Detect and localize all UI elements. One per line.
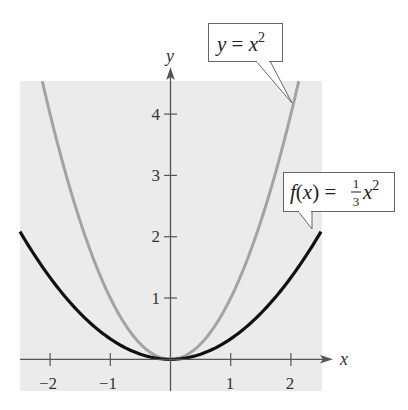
callout2-fraction-numerator: 1 — [353, 176, 360, 191]
callout1-exponent: 2 — [258, 30, 265, 45]
callout2-exponent: 2 — [372, 178, 379, 193]
parabola-chart: −2 −1 1 2 x 4 3 2 1 y y = x2 f(x) = 1 — [0, 0, 408, 410]
svg-text:f(x) =: f(x) = — [290, 180, 336, 204]
y-tick-label: 1 — [152, 289, 161, 308]
callout2-paren-open: ( — [296, 180, 303, 204]
y-tick-label: 3 — [152, 166, 161, 185]
callout2-paren-close: ) — [312, 180, 319, 204]
callout2-eq: = — [319, 180, 336, 204]
y-tick-label: 4 — [152, 105, 161, 124]
x-tick-label: 1 — [226, 374, 235, 393]
x-tick-label: 2 — [286, 374, 295, 393]
callout2-fraction-denominator: 3 — [353, 194, 360, 209]
callout1-lhs: y — [215, 32, 227, 56]
y-axis-label: y — [164, 46, 174, 66]
x-tick-label: −1 — [99, 374, 117, 393]
callout1-eq: = — [226, 32, 248, 56]
svg-text:y = x2: y = x2 — [215, 30, 265, 56]
x-axis-label: x — [339, 349, 348, 369]
x-tick-label: −2 — [39, 374, 57, 393]
y-tick-label: 2 — [152, 227, 161, 246]
